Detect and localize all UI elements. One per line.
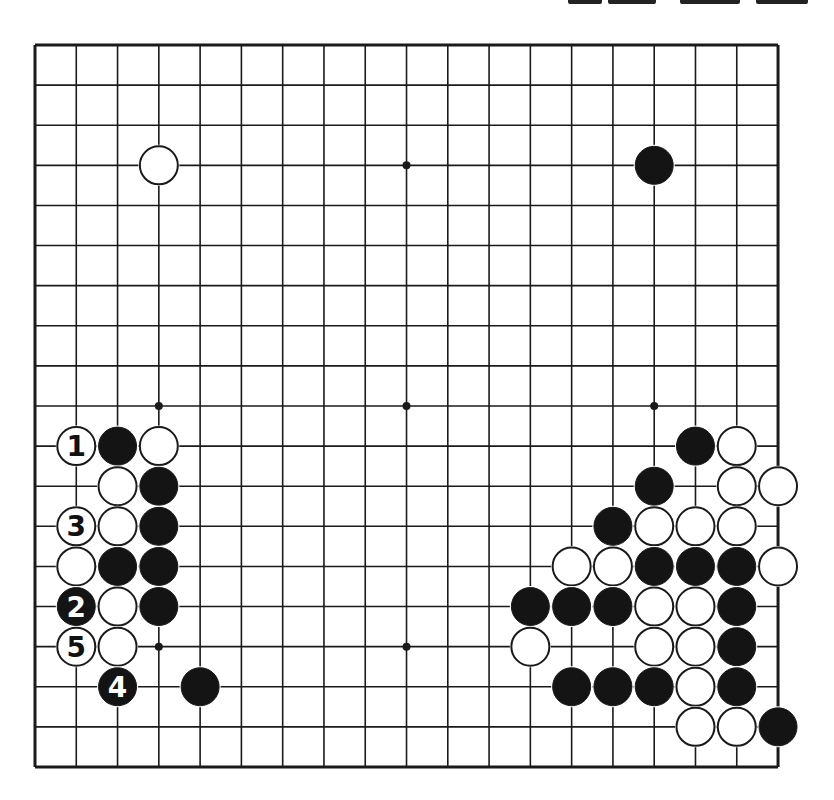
stone-body [594,668,632,706]
black-stone[interactable] [592,666,633,707]
black-stone[interactable] [138,546,179,587]
black-stone[interactable] [180,666,221,707]
stone-body [553,668,591,706]
white-stone[interactable] [675,586,716,627]
stone-body [140,146,178,184]
stone-body [718,507,756,545]
black-stone[interactable] [716,626,757,667]
black-stone[interactable] [138,506,179,547]
move-number-label: 4 [108,671,127,704]
black-stone[interactable] [634,466,675,507]
white-stone[interactable] [675,506,716,547]
stone-body [635,507,673,545]
stone-body [676,628,714,666]
white-stone[interactable] [716,706,757,747]
stone-body [594,547,632,585]
stone-body [181,668,219,706]
stone-body [718,668,756,706]
white-stone[interactable] [675,626,716,667]
white-stone[interactable] [716,506,757,547]
white-stone[interactable] [634,506,675,547]
white-stone[interactable] [592,546,633,587]
stone-body [635,588,673,626]
white-stone[interactable] [551,546,592,587]
white-stone[interactable]: 1 [56,426,97,467]
white-stone[interactable] [758,466,799,507]
stone-body [57,547,95,585]
stone-body [676,547,714,585]
white-stone[interactable] [510,626,551,667]
stone-body [553,588,591,626]
stone-body [676,668,714,706]
stone-body [718,628,756,666]
black-stone[interactable] [716,546,757,587]
stone-body [140,507,178,545]
black-stone[interactable] [716,586,757,627]
stone-body [759,708,797,746]
white-stone[interactable] [97,466,138,507]
black-stone[interactable] [97,546,138,587]
star-point [650,402,658,410]
stone-body [635,146,673,184]
stone-body [676,708,714,746]
stone-body [99,547,137,585]
stone-body [635,668,673,706]
black-stone[interactable] [592,506,633,547]
white-stone[interactable] [716,426,757,467]
black-stone[interactable] [675,546,716,587]
white-stone[interactable] [675,666,716,707]
black-stone[interactable] [592,586,633,627]
star-point [403,643,411,651]
black-stone[interactable] [634,145,675,186]
black-stone[interactable] [634,546,675,587]
white-stone[interactable] [634,626,675,667]
white-stone[interactable] [634,586,675,627]
black-stone[interactable] [510,586,551,627]
white-stone[interactable] [138,145,179,186]
stone-body [718,588,756,626]
white-stone[interactable] [758,546,799,587]
star-point [155,402,163,410]
move-number-label: 1 [67,430,86,463]
black-stone[interactable] [758,706,799,747]
white-stone[interactable] [675,706,716,747]
stone-body [759,547,797,585]
stone-body [635,547,673,585]
stone-body [553,547,591,585]
white-stone[interactable] [97,626,138,667]
stone-body [635,467,673,505]
stone-body [676,427,714,465]
white-stone[interactable] [97,506,138,547]
stone-body [676,588,714,626]
stone-body [594,507,632,545]
stone-body [594,588,632,626]
black-stone[interactable]: 4 [97,666,138,707]
black-stone[interactable] [138,466,179,507]
stone-body [676,507,714,545]
black-stone[interactable] [634,666,675,707]
black-stone[interactable]: 2 [56,586,97,627]
black-stone[interactable] [551,666,592,707]
white-stone[interactable] [138,426,179,467]
stone-body [99,628,137,666]
move-number-label: 3 [67,510,86,543]
black-stone[interactable] [716,666,757,707]
star-point [403,402,411,410]
stone-body [718,547,756,585]
black-stone[interactable] [551,586,592,627]
black-stone[interactable] [138,586,179,627]
white-stone[interactable] [97,586,138,627]
white-stone[interactable]: 3 [56,506,97,547]
go-board: 13254 [0,0,834,800]
stone-body [511,628,549,666]
stone-body [635,628,673,666]
stone-body [99,467,137,505]
white-stone[interactable] [716,466,757,507]
stone-body [759,467,797,505]
black-stone[interactable] [97,426,138,467]
white-stone[interactable] [56,546,97,587]
black-stone[interactable] [675,426,716,467]
white-stone[interactable]: 5 [56,626,97,667]
stone-body [140,588,178,626]
stone-body [718,427,756,465]
